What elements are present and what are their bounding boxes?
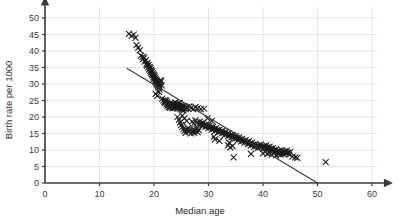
x-tick-label: 60 [367,189,377,199]
y-tick-label: 0 [34,178,39,188]
x-tick-label: 0 [42,189,47,199]
y-tick-label: 40 [29,46,39,56]
x-tick-label: 20 [149,189,159,199]
y-tick-labels: 05101520253035404550 [29,13,39,188]
x-tick-labels: 0102030405060 [42,189,377,199]
y-axis-arrowhead [41,0,49,5]
x-tick-label: 10 [94,189,104,199]
axes [41,0,393,187]
data-point [231,154,237,160]
data-point [184,118,190,124]
y-axis-title: Birth rate per 1000 [3,61,14,140]
y-tick-label: 5 [34,162,39,172]
y-tick-label: 10 [29,145,39,155]
data-point [216,138,222,144]
data-point [248,151,254,157]
x-axis-arrowhead [384,179,393,187]
trend-line-segment [127,68,318,183]
y-tick-label: 45 [29,30,39,40]
x-tick-label: 40 [258,189,268,199]
data-point [323,159,329,165]
chart-canvas: 0102030405060 05101520253035404550 Media… [0,0,399,221]
y-tick-label: 15 [29,129,39,139]
y-tick-label: 50 [29,13,39,23]
x-tick-label: 30 [203,189,213,199]
scatter-chart: 0102030405060 05101520253035404550 Media… [0,0,399,221]
data-point [137,47,143,53]
y-tick-label: 25 [29,96,39,106]
x-tick-label: 50 [312,189,322,199]
data-point [201,106,207,112]
x-axis-title: Median age [175,205,225,216]
trend-line [127,68,318,183]
y-tick-label: 20 [29,112,39,122]
y-tick-label: 30 [29,79,39,89]
y-tick-label: 35 [29,63,39,73]
gridlines [45,7,377,183]
